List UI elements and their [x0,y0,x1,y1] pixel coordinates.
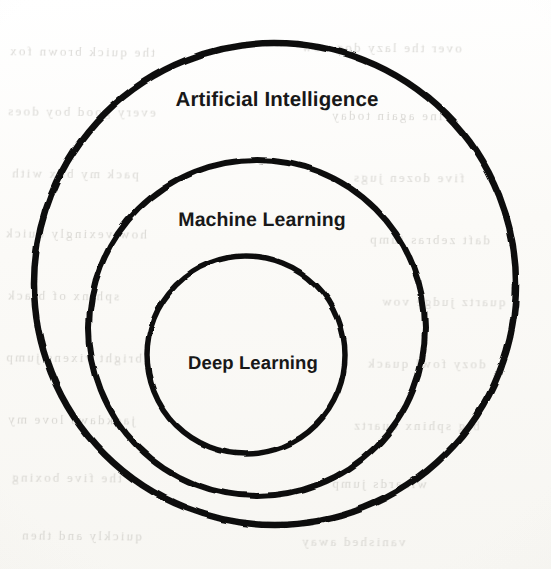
diagram-canvas: the quick brown foxover the lazy dog now… [0,0,551,569]
label-deep-learning: Deep Learning [188,352,318,374]
label-machine-learning: Machine Learning [178,209,345,232]
concentric-circles-svg [0,0,551,569]
circle-artificial-intelligence [34,43,516,525]
label-artificial-intelligence: Artificial Intelligence [176,88,379,112]
